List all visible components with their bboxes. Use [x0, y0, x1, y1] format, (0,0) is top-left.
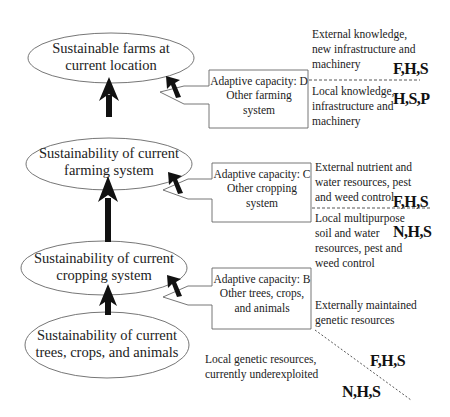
d-local-code: H,S,P [393, 90, 430, 108]
box-b-label: Adaptive capacity: BOther trees, crops,a… [213, 272, 311, 315]
b-external-code: F,H,S [370, 352, 405, 370]
level-trees-label: Sustainability of currenttrees, crops, a… [24, 327, 190, 362]
c-external-code: F,H,S [393, 193, 428, 211]
box-c-label: Adaptive capacity: COther croppingsystem [213, 167, 311, 210]
b-external-resources: Externally maintainedgenetic resources [315, 298, 445, 328]
b-local-code: N,H,S [342, 383, 380, 401]
box-d-label: Adaptive capacity: DOther farmingsystem [210, 74, 308, 117]
level-cropping-label: Sustainability of currentcropping system [21, 250, 187, 285]
c-local-code: N,H,S [393, 223, 431, 241]
level-farms-label: Sustainable farms atcurrent location [28, 40, 194, 75]
level-farming-label: Sustainability of currentfarming system [26, 145, 192, 180]
b-local-resources: Local genetic resources,currently undere… [205, 352, 325, 382]
d-external-code: F,H,S [393, 60, 428, 78]
